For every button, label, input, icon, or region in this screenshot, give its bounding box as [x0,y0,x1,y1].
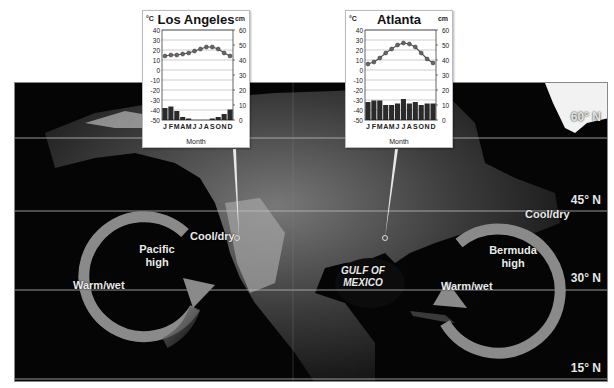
precip-tick-label: 10 [442,102,450,109]
precip-tick-label: 40 [239,57,247,64]
map-graphics [15,83,608,382]
pacific-high-line2: high [127,256,187,269]
precip-bar-a-3 [383,105,388,120]
temp-tick-label: 20 [153,47,161,54]
month-tick-label: J [193,123,197,130]
month-tick-label: A [407,123,412,130]
temp-tick-label: 10 [356,57,364,64]
month-tick-label: A [204,123,209,130]
precip-bar-j-0 [162,108,167,120]
precip-bar-a-7 [407,104,412,121]
temp-tick-label: -40 [354,107,364,114]
precip-tick-label: 30 [239,72,247,79]
temperature-point-5 [193,49,197,53]
month-tick-label: D [228,123,233,130]
precip-bar-n-10 [425,104,430,121]
bermuda-high-label: Bermuda high [477,244,549,270]
precip-bar-d-11 [227,110,232,121]
bermuda-cool-dry-label: Cool/dry [525,208,570,221]
precip-tick-label: 0 [442,117,446,124]
temperature-point-7 [407,42,411,46]
temperature-point-1 [372,60,376,64]
temperature-point-4 [390,47,394,51]
temp-tick-label: 10 [153,57,161,64]
bermuda-high-line2: high [477,257,549,270]
temp-tick-label: 0 [156,67,160,74]
precip-bar-m-2 [377,101,382,121]
temp-tick-label: -10 [151,77,161,84]
temp-tick-label: 40 [356,27,364,34]
temperature-point-9 [419,51,423,55]
temperature-point-1 [169,53,173,57]
precip-tick-label: 20 [442,87,450,94]
temp-tick-label: -20 [354,87,364,94]
temp-tick-label: -30 [151,97,161,104]
temperature-point-10 [222,51,226,55]
gulf-label-line2: MEXICO [333,277,393,289]
precip-bar-o-9 [419,105,424,120]
temperature-point-11 [431,61,435,65]
month-tick-label: M [186,123,192,130]
month-tick-label: J [366,123,370,130]
precip-bar-f-1 [371,101,376,121]
month-tick-label: J [396,123,400,130]
precip-tick-label: 50 [239,42,247,49]
month-tick-label: S [413,123,418,130]
month-tick-label: O [215,123,221,130]
temp-tick-label: -50 [354,117,364,124]
precip-tick-label: 30 [442,72,450,79]
precip-tick-label: 50 [442,42,450,49]
precip-tick-label: 20 [239,87,247,94]
temp-tick-label: 30 [356,37,364,44]
temperature-point-8 [210,45,214,49]
gulf-label-line1: GULF OF [333,265,393,277]
month-tick-label: A [383,123,388,130]
climograph-plot: 403020100-10-20-30-40-506050403020100JFM… [143,11,251,149]
month-tick-label: O [418,123,424,130]
temp-tick-label: 20 [356,47,364,54]
temperature-point-10 [425,57,429,61]
temperature-point-0 [366,62,370,66]
precip-bar-o-9 [216,117,221,120]
temperature-point-7 [204,45,208,49]
climograph-los-angeles: Los Angeles °C cm Month 403020100-10-20-… [142,10,250,148]
pacific-cool-dry-label: Cool/dry [190,230,235,243]
temperature-point-3 [181,52,185,56]
temperature-point-6 [401,41,405,45]
precip-tick-label: 60 [442,27,450,34]
month-tick-label: S [210,123,215,130]
month-tick-label: J [199,123,203,130]
temp-tick-label: -40 [151,107,161,114]
month-tick-label: N [425,123,430,130]
latitude-label-30n: 30° N [571,271,601,285]
precip-tick-label: 60 [239,27,247,34]
precip-bar-f-1 [168,107,173,121]
month-tick-label: N [222,123,227,130]
month-tick-label: J [163,123,167,130]
temperature-point-6 [198,47,202,51]
temperature-point-4 [187,51,191,55]
temperature-point-2 [378,56,382,60]
pacific-warm-wet-label: Warm/wet [73,279,125,292]
temperature-point-8 [413,45,417,49]
pacific-high-label: Pacific high [127,243,187,269]
precip-bar-d-11 [430,104,435,121]
precip-bar-m-2 [174,111,179,120]
precip-bar-n-10 [222,114,227,120]
satellite-map: 60° N 45° N 30° N 15° N Pacific high Coo… [14,82,608,382]
temp-tick-label: -10 [354,77,364,84]
temperature-point-0 [163,54,167,58]
month-tick-label: J [402,123,406,130]
precip-tick-label: 40 [442,57,450,64]
precip-bar-s-8 [413,102,418,120]
temperature-point-9 [216,47,220,51]
month-tick-label: M [377,123,383,130]
precip-bar-m-4 [389,105,394,120]
precip-bar-a-3 [180,117,185,120]
greenland [545,83,608,133]
temp-tick-label: -50 [151,117,161,124]
temp-tick-label: -30 [354,97,364,104]
precip-bar-j-6 [401,99,406,120]
temperature-point-5 [396,43,400,47]
precip-tick-label: 0 [239,117,243,124]
